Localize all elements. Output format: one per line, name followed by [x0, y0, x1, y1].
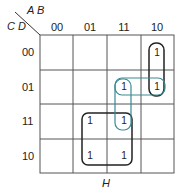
col-header-10: 10: [147, 21, 167, 33]
col-header-01: 01: [80, 21, 100, 33]
col-variable-label: A B: [27, 4, 44, 16]
cell-r2-c1: 1: [80, 115, 100, 126]
row-header-01: 01: [22, 81, 34, 93]
row-header-10: 10: [22, 150, 34, 162]
cell-r2-c2: 1: [114, 115, 134, 126]
row-variable-label: C D: [7, 20, 26, 32]
cell-r1-c3: 1: [147, 81, 167, 92]
cell-r3-c2: 1: [114, 150, 134, 161]
col-header-11: 11: [114, 21, 134, 33]
figure-caption: H: [102, 177, 110, 189]
cell-r1-c2: 1: [114, 81, 134, 92]
row-header-11: 11: [22, 115, 33, 127]
cell-r3-c1: 1: [80, 150, 100, 161]
col-header-00: 00: [47, 21, 67, 33]
row-header-00: 00: [22, 46, 34, 58]
cell-r0-c3: 1: [147, 47, 167, 58]
